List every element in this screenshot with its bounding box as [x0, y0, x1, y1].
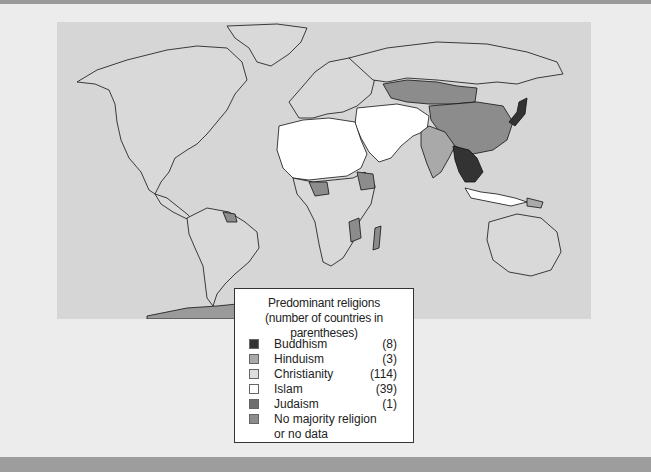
christianity-swatch — [249, 369, 259, 379]
legend-label: Christianity — [274, 367, 333, 382]
map-legend: Predominant religions (number of countri… — [234, 288, 414, 443]
legend-label: No majority religion — [274, 412, 377, 427]
legend-label: or no data — [274, 427, 328, 442]
legend-count: (1) — [382, 397, 397, 412]
world-map-svg — [57, 22, 591, 319]
legend-item-islam: Islam (39) — [249, 382, 407, 397]
madagascar — [373, 226, 381, 250]
legend-label: Buddhism — [274, 337, 327, 352]
legend-item-no-data: or no data — [249, 427, 407, 442]
australia — [487, 214, 561, 276]
legend-item-judaism: Judaism (1) — [249, 397, 407, 412]
central-asia-none — [383, 80, 477, 104]
legend-count: (39) — [376, 382, 397, 397]
legend-item-buddhism: Buddhism (8) — [249, 337, 407, 352]
legend-item-hinduism: Hinduism (3) — [249, 352, 407, 367]
legend-count: (3) — [382, 352, 397, 367]
papua — [527, 198, 543, 208]
legend-item-christianity: Christianity (114) — [249, 367, 407, 382]
legend-list: Buddhism (8) Hinduism (3) Christianity (… — [249, 337, 407, 442]
japan — [509, 98, 527, 126]
legend-label: Judaism — [274, 397, 319, 412]
legend-count: (114) — [370, 367, 397, 382]
hinduism-swatch — [249, 354, 259, 364]
legend-title: Predominant religions (number of countri… — [235, 296, 413, 341]
world-religion-map — [57, 22, 591, 319]
legend-item-no-majority: No majority religion — [249, 412, 407, 427]
no-majority-swatch — [249, 414, 259, 424]
judaism-swatch — [249, 399, 259, 409]
central-america — [155, 194, 193, 220]
mozambique — [349, 218, 361, 242]
legend-title-line1: Predominant religions — [235, 296, 413, 311]
bottom-border-band — [0, 457, 651, 472]
north-america — [77, 46, 247, 194]
north-africa — [277, 118, 367, 180]
legend-count: (8) — [382, 337, 397, 352]
top-border-band — [0, 0, 651, 4]
indonesia — [465, 188, 527, 206]
islam-swatch — [249, 384, 259, 394]
buddhism-swatch — [249, 339, 259, 349]
russia — [349, 42, 563, 84]
legend-label: Hinduism — [274, 352, 324, 367]
legend-label: Islam — [274, 382, 303, 397]
